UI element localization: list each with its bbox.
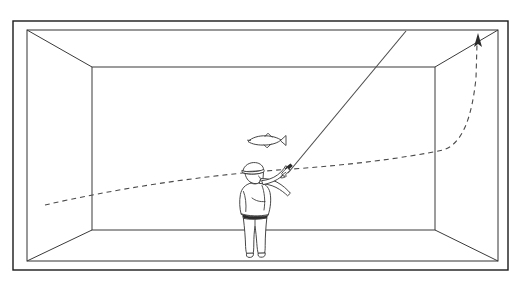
left-foot: [246, 253, 253, 257]
right-foot: [258, 253, 265, 257]
figure-root: Angler casting inside a perspective room…: [0, 0, 525, 291]
figure-canvas: [0, 0, 525, 291]
